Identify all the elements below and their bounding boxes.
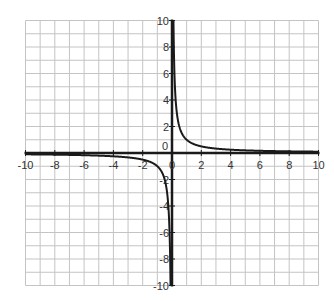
y-tick-label: 0 bbox=[162, 140, 168, 152]
y-tick-label: 8 bbox=[163, 41, 169, 53]
y-tick-label: -10 bbox=[153, 280, 169, 292]
curve-negative-branch bbox=[26, 154, 171, 285]
y-tick-label: 2 bbox=[163, 121, 169, 133]
y-tick-label: 10 bbox=[157, 15, 169, 27]
x-tick-label: -6 bbox=[79, 159, 89, 171]
x-tick-label: -8 bbox=[50, 159, 60, 171]
x-tick-label: 2 bbox=[198, 159, 204, 171]
x-tick-labels: -10-8-6-4-20246810 bbox=[18, 159, 325, 171]
hyperbola-graph: -10-8-6-4-20246810 -10-8-6-4-20246810 bbox=[0, 0, 334, 301]
x-tick-label: 8 bbox=[286, 159, 292, 171]
x-tick-label: 0 bbox=[169, 159, 175, 171]
y-tick-label: 6 bbox=[163, 68, 169, 80]
x-tick-label: 4 bbox=[228, 159, 234, 171]
y-tick-label: 4 bbox=[163, 94, 169, 106]
x-tick-label: -10 bbox=[18, 159, 34, 171]
x-tick-label: 10 bbox=[312, 159, 324, 171]
y-tick-label: -6 bbox=[159, 227, 169, 239]
y-tick-label: -8 bbox=[159, 253, 169, 265]
curve-positive-branch bbox=[173, 21, 318, 152]
x-tick-label: 6 bbox=[257, 159, 263, 171]
x-tick-label: -4 bbox=[109, 159, 119, 171]
